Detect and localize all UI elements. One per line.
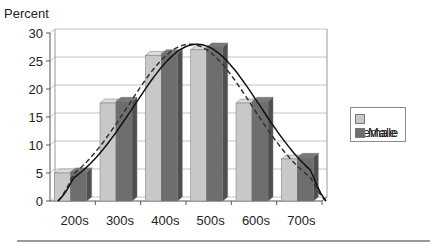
y-tick-label: 0: [36, 194, 43, 209]
y-tick-label: 5: [36, 166, 43, 181]
bar-male-300s: [116, 101, 132, 201]
male-swatch-icon: [355, 128, 365, 138]
gridline-side: [50, 169, 55, 173]
gridline-side: [50, 29, 55, 33]
x-tick-label: 600s: [242, 213, 271, 228]
legend-item-female: Female: [355, 111, 405, 125]
bar-side: [132, 97, 137, 201]
y-tick-label: 30: [29, 26, 43, 41]
bar-male-500s: [207, 47, 223, 201]
bar-female-300s: [100, 103, 116, 201]
legend-item-male: Male: [355, 125, 396, 139]
x-tick-label: 300s: [106, 213, 135, 228]
legend: Female Male: [350, 107, 406, 142]
gridline-side: [50, 113, 55, 117]
gridline-side: [50, 85, 55, 89]
bottom-rule: [17, 240, 430, 242]
x-tick-label: 500s: [197, 213, 226, 228]
gridline-side: [50, 141, 55, 145]
bar-male-400s: [161, 54, 177, 201]
x-tick-label: 200s: [61, 213, 90, 228]
bar-female-600s: [236, 103, 252, 201]
y-tick-label: 25: [29, 54, 43, 69]
x-tick-label: 400s: [151, 213, 180, 228]
female-swatch-icon: [355, 114, 365, 124]
x-tick-label: 700s: [287, 213, 316, 228]
bar-female-500s: [191, 50, 207, 201]
bar-side: [177, 50, 182, 201]
y-tick-label: 10: [29, 138, 43, 153]
gridline-side: [50, 197, 55, 201]
bar-male-600s: [252, 101, 268, 201]
bar-side: [268, 97, 273, 201]
y-tick-label: 15: [29, 110, 43, 125]
bar-male-200s: [71, 172, 87, 201]
gridline-side: [50, 57, 55, 61]
bar-female-700s: [281, 159, 297, 201]
bar-side: [87, 168, 92, 201]
y-tick-label: 20: [29, 82, 43, 97]
